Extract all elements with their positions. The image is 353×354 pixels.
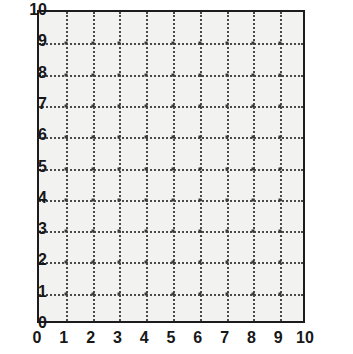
- grid-node: [198, 73, 201, 76]
- grid-node: [225, 230, 228, 233]
- grid-node: [172, 104, 175, 107]
- grid-node: [225, 198, 228, 201]
- grid-node: [145, 261, 148, 264]
- grid-node: [172, 230, 175, 233]
- grid-node: [279, 42, 282, 45]
- grid-node: [252, 42, 255, 45]
- plot-area: [37, 10, 305, 323]
- grid-node: [91, 136, 94, 139]
- x-tick-label: 3: [113, 330, 122, 346]
- grid-node: [172, 261, 175, 264]
- grid-node: [118, 73, 121, 76]
- y-tick-label: 8: [38, 65, 47, 81]
- grid-node: [225, 73, 228, 76]
- grid-node: [252, 198, 255, 201]
- grid-node: [91, 42, 94, 45]
- grid-node: [198, 261, 201, 264]
- grid-node: [145, 42, 148, 45]
- grid-node: [225, 104, 228, 107]
- grid-node: [118, 104, 121, 107]
- chart-figure: 012345678910 012345678910: [0, 0, 353, 354]
- grid-node: [91, 198, 94, 201]
- grid-node: [91, 167, 94, 170]
- grid-node: [225, 261, 228, 264]
- grid-node: [64, 198, 67, 201]
- grid-node: [225, 167, 228, 170]
- grid-node: [279, 104, 282, 107]
- grid-node: [198, 104, 201, 107]
- x-tick-label: 8: [247, 330, 256, 346]
- grid-node: [64, 261, 67, 264]
- grid-node: [225, 136, 228, 139]
- x-tick-label: 9: [274, 330, 283, 346]
- grid-node: [279, 73, 282, 76]
- grid-node: [198, 42, 201, 45]
- y-tick-label: 3: [38, 221, 47, 237]
- grid-node: [145, 230, 148, 233]
- grid-node: [279, 136, 282, 139]
- grid-node: [145, 292, 148, 295]
- x-tick-label: 1: [59, 330, 68, 346]
- grid-node: [64, 104, 67, 107]
- x-tick-label: 10: [296, 330, 314, 346]
- grid-node: [198, 230, 201, 233]
- grid-node: [64, 230, 67, 233]
- y-tick-label: 10: [29, 2, 47, 18]
- y-tick-label: 5: [38, 159, 47, 175]
- grid-node: [252, 261, 255, 264]
- grid-node: [118, 198, 121, 201]
- grid-node: [252, 104, 255, 107]
- grid-node: [145, 198, 148, 201]
- x-tick-label: 2: [86, 330, 95, 346]
- grid-node: [252, 292, 255, 295]
- grid-node: [91, 261, 94, 264]
- grid-node: [279, 292, 282, 295]
- grid-node: [279, 230, 282, 233]
- y-tick-label: 6: [38, 127, 47, 143]
- y-tick-label: 7: [38, 96, 47, 112]
- grid-node: [145, 104, 148, 107]
- grid-node: [172, 198, 175, 201]
- grid-node: [279, 198, 282, 201]
- grid-node: [118, 42, 121, 45]
- grid-node: [91, 104, 94, 107]
- grid-node: [279, 167, 282, 170]
- grid-node: [64, 167, 67, 170]
- grid-node: [172, 167, 175, 170]
- x-tick-label: 5: [167, 330, 176, 346]
- x-tick-label: 0: [33, 330, 42, 346]
- grid-node: [91, 73, 94, 76]
- grid-node: [172, 292, 175, 295]
- y-tick-label: 2: [38, 252, 47, 268]
- grid-node: [118, 292, 121, 295]
- grid-node: [225, 292, 228, 295]
- grid-node: [172, 136, 175, 139]
- grid-node: [172, 73, 175, 76]
- grid-node: [64, 136, 67, 139]
- grid-node: [252, 73, 255, 76]
- grid-node: [252, 230, 255, 233]
- grid-node: [172, 42, 175, 45]
- grid-node: [64, 292, 67, 295]
- grid-node: [118, 261, 121, 264]
- x-tick-label: 7: [220, 330, 229, 346]
- grid-node: [198, 198, 201, 201]
- grid-node: [91, 230, 94, 233]
- grid-node: [198, 292, 201, 295]
- grid-node: [252, 136, 255, 139]
- grid-node: [279, 261, 282, 264]
- grid-node: [225, 42, 228, 45]
- grid-node: [145, 73, 148, 76]
- grid-node: [91, 292, 94, 295]
- x-tick-label: 6: [193, 330, 202, 346]
- y-tick-label: 9: [38, 33, 47, 49]
- grid-node: [198, 136, 201, 139]
- grid-node: [118, 230, 121, 233]
- y-tick-label: 4: [38, 190, 47, 206]
- x-tick-label: 4: [140, 330, 149, 346]
- grid-node: [118, 167, 121, 170]
- grid-node: [198, 167, 201, 170]
- grid-node: [64, 73, 67, 76]
- grid-node: [252, 167, 255, 170]
- grid-node: [64, 42, 67, 45]
